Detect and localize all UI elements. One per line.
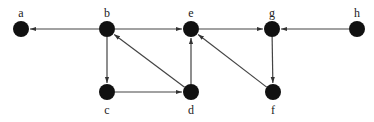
edges bbox=[30, 29, 349, 92]
node-label-c: c bbox=[104, 103, 109, 117]
node-d bbox=[183, 84, 199, 100]
node-e bbox=[183, 21, 199, 37]
node-label-b: b bbox=[104, 6, 110, 20]
node-h bbox=[349, 21, 365, 37]
node-label-h: h bbox=[354, 6, 360, 20]
edge-f-to-e bbox=[198, 34, 267, 87]
node-g bbox=[264, 21, 280, 37]
node-f bbox=[265, 84, 281, 100]
directed-graph: abeghcdf bbox=[0, 0, 374, 122]
node-c bbox=[99, 84, 115, 100]
node-a bbox=[13, 21, 29, 37]
node-label-g: g bbox=[269, 6, 275, 20]
node-label-e: e bbox=[188, 6, 193, 20]
edge-g-to-f bbox=[272, 37, 273, 83]
nodes bbox=[13, 21, 365, 100]
node-label-f: f bbox=[271, 103, 275, 117]
edge-d-to-b bbox=[114, 34, 184, 87]
node-label-d: d bbox=[188, 103, 194, 117]
node-label-a: a bbox=[18, 6, 24, 20]
node-b bbox=[99, 21, 115, 37]
